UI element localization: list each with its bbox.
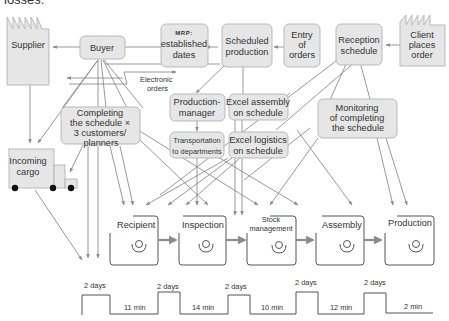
process-time: 11 min bbox=[124, 303, 146, 312]
svg-text:Production-: Production- bbox=[174, 97, 221, 107]
svg-text:Incoming: Incoming bbox=[9, 156, 46, 166]
process-time: 2 min bbox=[404, 302, 422, 311]
wheel-icon bbox=[50, 185, 56, 191]
completing-schedule-node: Completing the schedule × 3 customers/ p… bbox=[61, 107, 140, 148]
wheel-icon bbox=[12, 185, 18, 191]
svg-text:to departments: to departments bbox=[172, 147, 222, 156]
svg-text:Scheduled: Scheduled bbox=[225, 36, 268, 46]
mrp-node: MRP: established dates bbox=[161, 24, 208, 67]
process-time: 12 min bbox=[330, 303, 352, 312]
svg-text:established: established bbox=[161, 39, 207, 49]
caption-text: losses. bbox=[4, 0, 44, 7]
svg-text:management: management bbox=[249, 224, 292, 233]
svg-text:MRP:: MRP: bbox=[175, 30, 192, 36]
svg-text:Production: Production bbox=[388, 218, 432, 228]
electronic-orders-label: Electronic bbox=[140, 75, 173, 84]
svg-text:Excel assembly: Excel assembly bbox=[226, 97, 290, 107]
svg-text:Reception: Reception bbox=[338, 35, 379, 45]
svg-text:the schedule: the schedule bbox=[332, 123, 384, 133]
entry-of-orders-node: Entry of orders bbox=[284, 24, 320, 67]
station-inspection: Inspection bbox=[179, 216, 226, 265]
excel-logistics-node: Excel logistics on schedule bbox=[229, 132, 288, 158]
production-manager-node: Production- manager bbox=[170, 94, 225, 121]
wheel-icon bbox=[68, 185, 74, 191]
scheduled-production-node: Scheduled production bbox=[222, 24, 272, 67]
svg-text:Excel logistics: Excel logistics bbox=[229, 135, 287, 145]
svg-text:orders: orders bbox=[289, 50, 315, 60]
monitoring-node: Monitoring of completing the schedule bbox=[318, 99, 397, 138]
reception-schedule-node: Reception schedule bbox=[336, 24, 382, 65]
svg-text:Monitoring: Monitoring bbox=[336, 103, 379, 113]
svg-text:places: places bbox=[409, 40, 436, 50]
client-node: Client places order bbox=[400, 15, 445, 66]
svg-text:3 customers/: 3 customers/ bbox=[74, 128, 127, 138]
station-assembly: Assembly bbox=[316, 216, 364, 265]
svg-text:of completing: of completing bbox=[330, 113, 385, 123]
svg-text:order: order bbox=[411, 50, 432, 60]
svg-text:cargo: cargo bbox=[17, 167, 40, 177]
svg-text:Inspection: Inspection bbox=[182, 220, 224, 230]
svg-text:schedule: schedule bbox=[341, 46, 378, 56]
svg-text:Transportation: Transportation bbox=[173, 136, 220, 145]
station-stock-management: Stock management bbox=[247, 215, 296, 265]
stations: Recipient Inspection Stock management bbox=[110, 215, 434, 265]
svg-text:planners: planners bbox=[83, 138, 119, 148]
station-recipient: Recipient bbox=[110, 216, 158, 265]
svg-text:orders: orders bbox=[147, 84, 168, 93]
svg-text:dates: dates bbox=[173, 50, 196, 60]
svg-text:the schedule ×: the schedule × bbox=[70, 118, 130, 128]
wait-time: 2 days bbox=[364, 278, 386, 287]
svg-text:Recipient: Recipient bbox=[117, 220, 156, 230]
process-time: 10 min bbox=[261, 303, 283, 312]
supplier-node: Supplier bbox=[7, 17, 49, 85]
svg-text:Stock: Stock bbox=[262, 215, 281, 224]
buyer-node: Buyer bbox=[80, 36, 125, 59]
svg-text:Completing: Completing bbox=[77, 108, 123, 118]
supplier-label: Supplier bbox=[11, 40, 45, 50]
process-time: 14 min bbox=[192, 303, 214, 312]
svg-text:Buyer: Buyer bbox=[90, 43, 114, 53]
transportation-node: Transportation to departments bbox=[170, 132, 224, 158]
wait-time: 2 days bbox=[295, 278, 317, 287]
incoming-cargo-truck: Incoming cargo bbox=[9, 149, 77, 191]
svg-text:Client: Client bbox=[410, 30, 434, 40]
svg-text:Assembly: Assembly bbox=[322, 220, 362, 230]
svg-text:of: of bbox=[298, 40, 306, 50]
svg-text:production: production bbox=[226, 47, 269, 57]
svg-text:on schedule: on schedule bbox=[233, 108, 283, 118]
value-stream-map: losses. bbox=[0, 0, 449, 321]
svg-text:on schedule: on schedule bbox=[233, 146, 283, 156]
svg-text:Entry: Entry bbox=[291, 30, 313, 40]
wait-time: 2 days bbox=[84, 281, 106, 290]
wait-time: 2 days bbox=[157, 282, 179, 291]
wait-time: 2 days bbox=[225, 282, 247, 291]
station-production: Production bbox=[385, 216, 434, 265]
svg-text:manager: manager bbox=[179, 108, 215, 118]
timeline: 2 days 2 days 2 days 2 days 2 days 11 mi… bbox=[82, 278, 433, 315]
excel-assembly-node: Excel assembly on schedule bbox=[226, 94, 290, 120]
